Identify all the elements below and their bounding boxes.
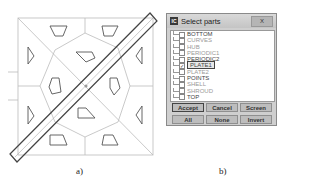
caption-a: a) [76,166,83,176]
dialog-titlebar[interactable]: IC Select parts X [167,14,276,28]
dialog-title: Select parts [181,17,221,26]
accept-button[interactable]: Accept [172,103,204,112]
select-parts-dialog: IC Select parts X BOTTOM CURVES HUB PERI… [166,13,277,126]
none-button[interactable]: None [206,115,238,124]
cancel-button[interactable]: Cancel [206,103,238,112]
all-button[interactable]: All [172,115,204,124]
close-button[interactable]: X [251,16,273,27]
screen-button[interactable]: Screen [240,103,272,112]
part-item-top[interactable]: TOP [171,94,274,100]
checkbox[interactable] [179,94,185,100]
invert-button[interactable]: Invert [240,115,272,124]
geometry-view: a) [0,0,160,189]
mesh-geometry-drawing [0,0,160,189]
app-icon: IC [170,17,178,25]
caption-b: b) [219,166,227,176]
parts-list[interactable]: BOTTOM CURVES HUB PERIODIC1 PERIODIC2 ✓P… [170,30,275,102]
